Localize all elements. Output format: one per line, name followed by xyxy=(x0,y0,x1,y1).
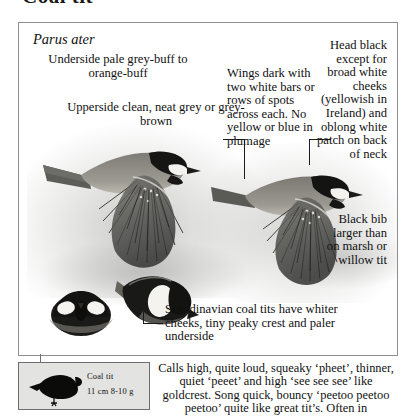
callout-wings: Wings dark with two white bars or rows o… xyxy=(227,67,319,149)
illustration-plate: Parus ater xyxy=(18,22,398,356)
callout-scandinavian: Scandinavian coal tits have whiter cheek… xyxy=(165,303,355,344)
leader-line-head xyxy=(309,139,331,140)
leader-line-wings-drop xyxy=(244,139,245,179)
caption-measurements: 11 cm 8-10 g xyxy=(87,387,134,396)
leader-line-scandinavian xyxy=(143,323,163,324)
caption-bird-silhouette xyxy=(27,369,83,407)
page-title: Coal tit xyxy=(22,0,93,9)
calls-description: Calls high, quite loud, squeaky ‘pheet’,… xyxy=(156,362,396,416)
scientific-name: Parus ater xyxy=(33,31,95,48)
callout-upperside: Upperside clean, neat grey or grey-brown xyxy=(67,101,245,128)
callout-underside: Underside pale grey-buff to orange-buff xyxy=(33,53,203,80)
caption-species-name: Coal tit xyxy=(87,372,114,381)
callout-bib: Black bib larger than on marsh or willow… xyxy=(319,213,387,267)
perched-coal-tit-front xyxy=(45,281,117,337)
leader-line-head-drop xyxy=(309,139,310,165)
species-caption-box: Coal tit 11 cm 8-10 g xyxy=(18,362,150,410)
callout-head: Head black except for broad white cheeks… xyxy=(311,39,387,161)
leader-line-scandinavian-rise xyxy=(143,311,144,324)
leader-line-wings xyxy=(223,139,245,140)
flying-coal-tit-left xyxy=(41,133,221,283)
